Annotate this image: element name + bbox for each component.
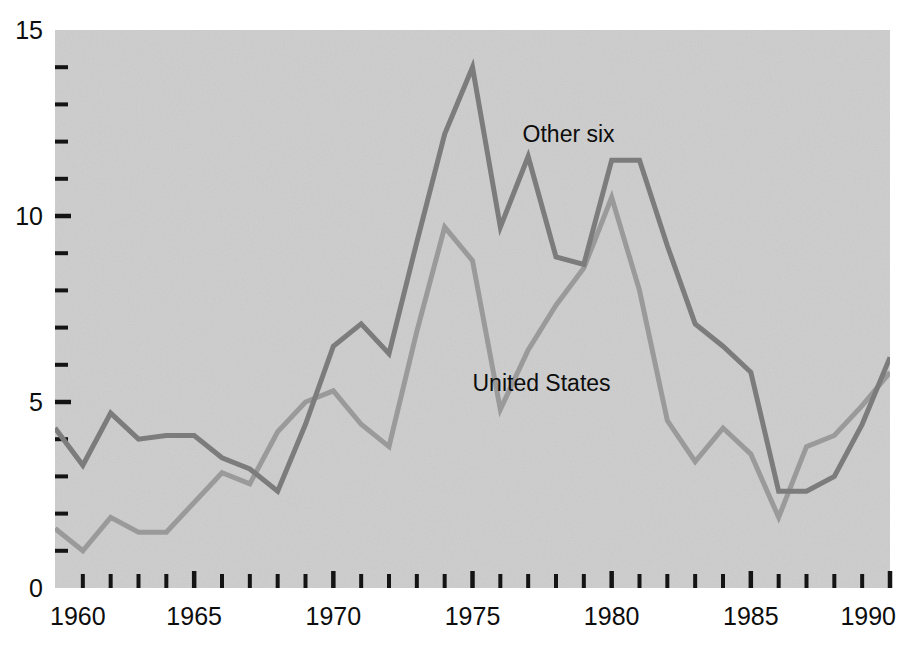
y-tick-label-5: 5 <box>29 388 43 416</box>
y-tick-label-10: 10 <box>15 202 43 230</box>
chart-figure: 051015 1960196519701975198019851990 Othe… <box>0 0 924 653</box>
plot-area-texture <box>55 30 890 588</box>
x-tick-label-1960: 1960 <box>50 602 106 630</box>
x-tick-label-1980: 1980 <box>584 602 640 630</box>
x-tick-label-1970: 1970 <box>306 602 362 630</box>
y-tick-label-15: 15 <box>15 16 43 44</box>
x-tick-label-1965: 1965 <box>166 602 222 630</box>
x-tick-label-1975: 1975 <box>445 602 501 630</box>
y-tick-label-0: 0 <box>29 574 43 602</box>
x-tick-label-1990: 1990 <box>840 602 896 630</box>
series-label-united-states: United States <box>473 370 611 396</box>
x-axis-tick-labels: 1960196519701975198019851990 <box>50 602 896 630</box>
line-chart: 051015 1960196519701975198019851990 Othe… <box>0 0 924 653</box>
series-label-other-six: Other six <box>523 121 616 147</box>
x-tick-label-1985: 1985 <box>723 602 779 630</box>
